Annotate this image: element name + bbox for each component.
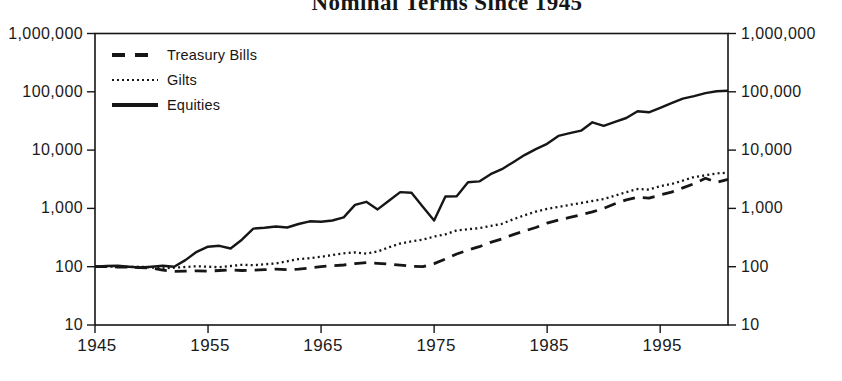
y-axis-left-tick-label: 1,000,000: [0, 24, 83, 44]
y-axis-right-tick-label: 1,000: [741, 198, 839, 218]
y-axis-right-tick-label: 10,000: [741, 140, 839, 160]
x-axis-tick-label: 1985: [509, 336, 589, 356]
legend: Treasury Bills Gilts Equities: [112, 43, 257, 117]
legend-label-equities: Equities: [167, 97, 220, 113]
y-axis-left-tick-label: 10: [0, 315, 83, 335]
chart-screenshot: Nominal Terms Since 1945 1,000,000100,00…: [0, 0, 842, 381]
legend-item-equities: Equities: [112, 93, 257, 117]
y-axis-left-tick-label: 100,000: [0, 82, 83, 102]
x-axis-tick-label: 1975: [396, 336, 476, 356]
series-line-gilts: [95, 173, 728, 269]
dotted-line-sample-icon: [112, 79, 158, 82]
x-axis-tick-label: 1945: [57, 336, 137, 356]
y-axis-left-tick-label: 1,000: [0, 198, 83, 218]
y-axis-right-tick-label: 1,000,000: [741, 24, 839, 44]
x-axis-tick-label: 1955: [170, 336, 250, 356]
x-axis-tick-label: 1965: [283, 336, 363, 356]
y-axis-right-tick-label: 100: [741, 257, 839, 277]
legend-label-gilts: Gilts: [167, 72, 197, 88]
y-axis-right-tick-label: 100,000: [741, 82, 839, 102]
legend-item-gilts: Gilts: [112, 68, 257, 92]
legend-label-treasury-bills: Treasury Bills: [167, 47, 257, 63]
solid-line-sample-icon: [112, 103, 158, 107]
y-axis-left-tick-label: 10,000: [0, 140, 83, 160]
series-line-equities: [95, 91, 728, 268]
y-axis-left-tick-label: 100: [0, 257, 83, 277]
y-axis-right-tick-label: 10: [741, 315, 839, 335]
legend-item-treasury-bills: Treasury Bills: [112, 43, 257, 67]
x-axis-tick-label: 1995: [622, 336, 702, 356]
dashed-line-sample-icon: [112, 53, 158, 57]
